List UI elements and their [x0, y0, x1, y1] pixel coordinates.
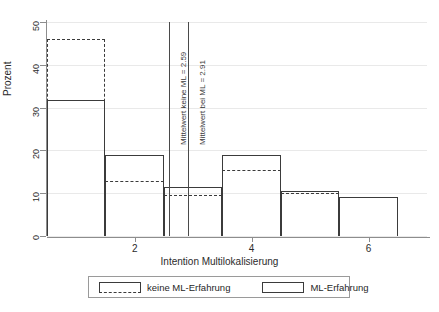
- legend-item-keine-ml[interactable]: keine ML-Erfahrung: [89, 282, 230, 293]
- x-tick-label: 2: [125, 243, 145, 254]
- histogram-bar: [339, 197, 397, 236]
- legend-swatch-dashed-icon: [99, 282, 141, 293]
- x-tick-label: 6: [359, 243, 379, 254]
- y-tick-label: 50: [31, 21, 41, 45]
- x-tick: [135, 237, 136, 242]
- y-tick-label: 10: [31, 192, 41, 216]
- x-axis-line: [47, 237, 430, 238]
- histogram-bar: [281, 191, 339, 236]
- legend-label-keine-ml: keine ML-Erfahrung: [147, 282, 230, 293]
- reference-line: [188, 22, 189, 236]
- x-tick-label: 4: [242, 243, 262, 254]
- gridline: [47, 22, 427, 23]
- y-tick-label: 30: [31, 107, 41, 131]
- legend-label-ml: ML-Erfahrung: [310, 282, 368, 293]
- x-tick: [252, 237, 253, 242]
- histogram-bar: [222, 155, 280, 236]
- y-tick-label: 40: [31, 64, 41, 88]
- legend-swatch-solid-icon: [262, 282, 304, 293]
- chart-legend: keine ML-Erfahrung ML-Erfahrung: [88, 276, 350, 298]
- legend-item-ml[interactable]: ML-Erfahrung: [252, 282, 368, 293]
- histogram-bar: [47, 100, 105, 236]
- reference-line-label: Mittelwert keine ML = 2.59: [179, 52, 188, 145]
- reference-line: [169, 22, 170, 236]
- y-tick-label: 20: [31, 149, 41, 173]
- y-axis-label: Prozent: [2, 62, 13, 96]
- chart-canvas: Mittelwert keine ML = 2.59Mittelwert bei…: [0, 0, 439, 312]
- histogram-bar: [164, 187, 222, 236]
- y-axis-line: [46, 20, 47, 236]
- x-axis-label: Intention Multilokalisierung: [0, 256, 439, 267]
- x-tick: [369, 237, 370, 242]
- reference-line-label: Mittelwert bei ML = 2.91: [198, 60, 207, 145]
- histogram-bar: [105, 155, 163, 236]
